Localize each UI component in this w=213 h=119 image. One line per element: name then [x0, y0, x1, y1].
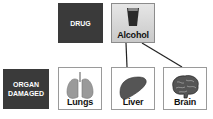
glass-icon	[126, 7, 140, 27]
organ-label-liver: Liver	[112, 97, 154, 107]
organ-label-brain: Brain	[164, 97, 206, 107]
drug-tile-alcohol: Alcohol	[111, 3, 155, 43]
organ-tile-liver: Liver	[111, 67, 155, 110]
organ-row-label-line2: DAMAGED	[8, 89, 44, 98]
connector-alcohol-brain	[142, 43, 182, 67]
drug-label: Alcohol	[112, 30, 154, 40]
organ-label-lungs: Lungs	[59, 97, 101, 107]
organ-row-label: ORGAN DAMAGED	[3, 69, 49, 109]
organ-tile-lungs: Lungs	[58, 67, 102, 110]
brain-icon	[169, 73, 201, 99]
drug-row-label: DRUG	[58, 3, 103, 43]
drug-row-label-text: DRUG	[70, 19, 91, 28]
connector-alcohol-liver	[126, 43, 127, 67]
organ-tile-brain: Brain	[163, 67, 207, 110]
organ-row-label-line1: ORGAN	[13, 80, 39, 89]
